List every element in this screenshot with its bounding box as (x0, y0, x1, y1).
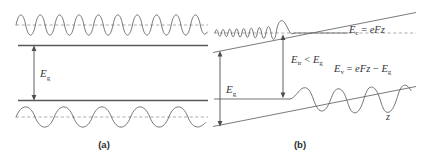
panel-a-caption: (a) (98, 139, 110, 150)
transition-energy-label: Etr < Eg (290, 54, 323, 67)
band-diagram-svg: Eg (a) (0, 0, 423, 157)
panel-b: Eg Etr < Eg Ec = eFz Ev = eFz − Eg z (b) (213, 13, 416, 151)
band-gap-label-a: Eg (39, 67, 51, 82)
panel-a: Eg (a) (16, 15, 208, 150)
z-axis-label: z (385, 111, 390, 122)
conduction-band-tilted-line-b (213, 13, 416, 53)
band-gap-label-b: Eg (225, 83, 237, 98)
band-gap-label-a-sub: g (47, 74, 51, 82)
band-gap-arrow-b (218, 51, 223, 127)
conduction-band-energy-label: Ec = eFz (348, 24, 385, 37)
figure-root: Eg (a) (0, 0, 423, 157)
transition-arrow-b (281, 34, 286, 98)
band-gap-arrow-a (32, 45, 37, 100)
panel-b-caption: (b) (294, 139, 306, 150)
band-gap-label-b-sub: g (233, 90, 237, 98)
valence-band-energy-label: Ev = eFz − Eg (333, 63, 392, 76)
